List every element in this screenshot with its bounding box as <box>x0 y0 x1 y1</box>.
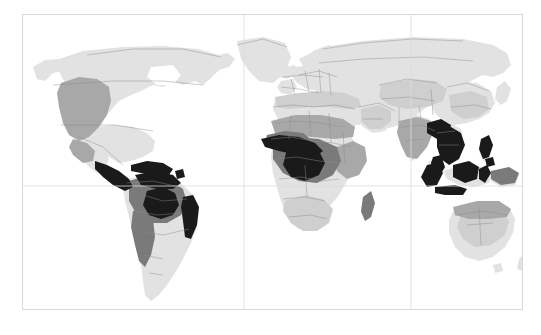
map-frame <box>22 14 523 310</box>
screenshot-root <box>0 0 541 335</box>
world-map[interactable] <box>23 15 522 309</box>
